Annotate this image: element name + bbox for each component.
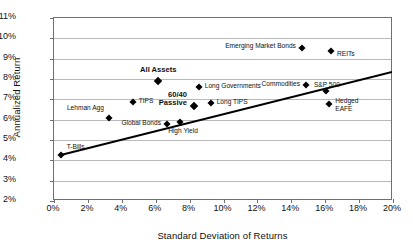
y-tick-label: 10% (0, 31, 16, 41)
y-tick-mark (50, 160, 54, 161)
data-point-label: Long TIPS (217, 98, 248, 105)
y-tick-label: 4% (0, 153, 16, 163)
gridline (54, 59, 391, 60)
gridline (54, 79, 391, 80)
data-point-label: High Yield (168, 127, 198, 134)
y-tick-label: 11% (0, 11, 16, 21)
gridline (54, 181, 391, 182)
y-tick-label: 9% (0, 52, 16, 62)
y-tick-mark (50, 181, 54, 182)
y-tick-label: 5% (0, 133, 16, 143)
x-axis-title: Standard Deviation of Returns (53, 230, 392, 241)
gridline (54, 38, 391, 39)
data-point-label: Hedged EAFE (335, 97, 358, 112)
y-tick-label: 2% (0, 194, 16, 204)
y-tick-label: 8% (0, 72, 16, 82)
y-tick-mark (50, 38, 54, 39)
y-tick-mark (50, 99, 54, 100)
gridline (54, 140, 391, 141)
y-tick-label: 6% (0, 113, 16, 123)
data-point-label: Lehman Agg (67, 104, 104, 111)
data-point-label: REITs (337, 50, 355, 57)
gridline (54, 160, 391, 161)
y-tick-mark (50, 59, 54, 60)
y-tick-mark (50, 18, 54, 19)
data-point-label: 60/40 Passive (159, 91, 187, 108)
y-tick-label: 3% (0, 174, 16, 184)
data-point-label: Emerging Market Bonds (225, 42, 296, 49)
data-point-label: Global Bonds (121, 119, 161, 126)
scatter-chart: Annualized Return Standard Deviation of … (0, 0, 413, 251)
y-tick-mark (50, 140, 54, 141)
data-point-label: All Assets (140, 66, 176, 75)
data-point-label: Commodities (262, 80, 300, 87)
data-point-label: TIPS (139, 97, 154, 104)
y-tick-label: 7% (0, 92, 16, 102)
y-tick-mark (50, 120, 54, 121)
data-point-label: Long Governments (205, 82, 261, 89)
x-tick-label: 20% (372, 203, 412, 213)
y-tick-mark (50, 79, 54, 80)
gridline (54, 120, 391, 121)
data-point-label: T-Bills (67, 143, 85, 150)
data-point-label: S&P 500 (314, 81, 340, 88)
